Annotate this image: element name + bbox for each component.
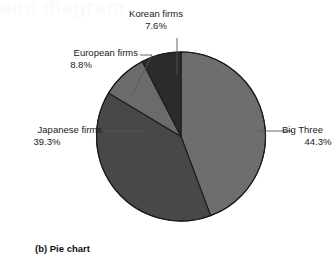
slice-label-european-name: European firms: [74, 47, 138, 58]
slice-label-japanese-percent: 39.3%: [4, 136, 102, 148]
slice-label-european-percent: 8.8%: [36, 59, 138, 71]
slice-label-korean-name: Korean firms: [129, 8, 183, 19]
slice-label-japanese-name: Japanese firms: [38, 124, 102, 135]
slice-label-european: European firms 8.8%: [36, 47, 138, 71]
slice-label-bigthree-percent: 44.3%: [282, 136, 336, 148]
pie-slices-group: [97, 52, 266, 221]
slice-label-bigthree-name: Big Three: [282, 124, 323, 135]
slice-label-korean-percent: 7.6%: [104, 20, 208, 32]
slice-label-bigthree: Big Three 44.3%: [282, 124, 336, 148]
slice-label-japanese: Japanese firms 39.3%: [4, 124, 102, 148]
slice-label-korean: Korean firms 7.6%: [104, 8, 208, 32]
figure-caption: (b) Pie chart: [35, 243, 90, 254]
